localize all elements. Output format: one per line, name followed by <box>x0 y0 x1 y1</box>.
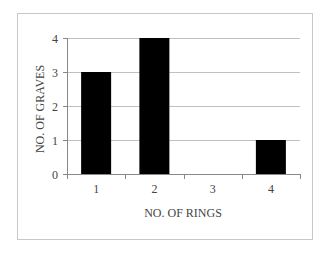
y-tick-label: 0 <box>52 168 58 182</box>
y-tick-label: 3 <box>52 66 58 80</box>
y-tick-labels: 01234 <box>52 32 58 182</box>
x-tick-labels: 1234 <box>93 182 274 196</box>
x-tick-label: 1 <box>93 182 99 196</box>
y-axis-title: NO. OF GRAVES <box>33 65 47 153</box>
bar-chart: 01234 1234 NO. OF GRAVES NO. OF RINGS <box>0 0 330 254</box>
y-tick-label: 1 <box>52 134 58 148</box>
bar <box>81 72 111 174</box>
y-tick-label: 4 <box>52 32 58 46</box>
x-tick-label: 4 <box>268 182 274 196</box>
x-axis-title: NO. OF RINGS <box>144 206 222 220</box>
bar <box>139 38 169 174</box>
x-tick-label: 3 <box>210 182 216 196</box>
y-tick-label: 2 <box>52 100 58 114</box>
bar <box>256 140 286 174</box>
x-tick-label: 2 <box>151 182 157 196</box>
